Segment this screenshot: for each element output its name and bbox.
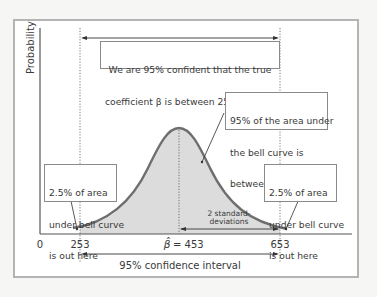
arrowhead-right-icon (273, 36, 279, 40)
std-dev-label: deviations (210, 217, 249, 226)
top-confidence-box: We are 95% confident that the true coeff… (100, 41, 280, 69)
center-area-box: 95% of the area under the bell curve is … (225, 92, 328, 130)
arrowhead-left-icon (81, 36, 87, 40)
right-box-line3: is out here (269, 251, 332, 262)
center-box-line2: the bell curve is (230, 148, 323, 159)
right-box-line2: under bell curve (269, 220, 332, 231)
right-box-line1: 2.5% of area (269, 188, 332, 199)
right-tail-box: 2.5% of area under bell curve is out her… (264, 164, 337, 202)
x-tick-zero: 0 (37, 239, 43, 250)
left-box-line1: 2.5% of area (49, 188, 112, 199)
ci-label: 95% confidence interval (119, 260, 240, 271)
left-tail-box: 2.5% of area under bell curve is out her… (44, 164, 117, 202)
center-leader-line (202, 113, 224, 162)
x-tick-estimate: = 453 (173, 239, 204, 250)
center-box-line1: 95% of the area under (230, 116, 323, 127)
y-axis-label: Probability (25, 21, 36, 74)
x-tick-estimate-symbol: β̂ (163, 237, 171, 250)
left-box-line2: under bell curve (49, 220, 112, 231)
top-box-line1: We are 95% confident that the true (105, 65, 275, 76)
left-box-line3: is out here (49, 251, 112, 262)
